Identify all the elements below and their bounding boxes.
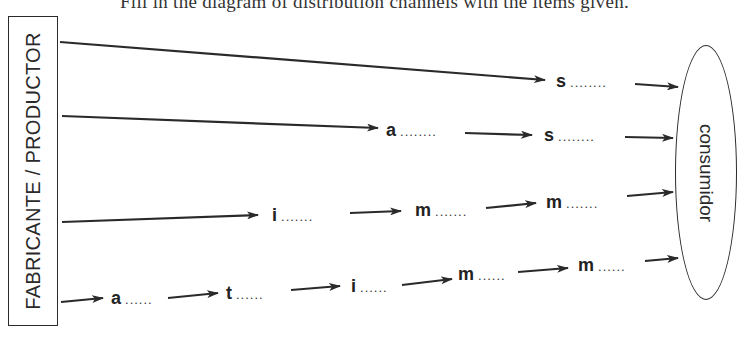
blank-dots[interactable]: ....... (281, 209, 313, 224)
channel-4-node-5: m...... (578, 255, 626, 276)
channel-3-node-3: m....... (546, 192, 598, 213)
arrow-icon (635, 84, 678, 87)
channel-1-node-1: s........ (556, 71, 607, 92)
blank-dots[interactable]: ...... (360, 280, 388, 295)
arrow-icon (627, 192, 673, 196)
node-letter: i (272, 205, 277, 225)
arrow-icon (518, 268, 568, 272)
arrow-icon (645, 258, 678, 261)
node-letter: s (544, 125, 554, 145)
arrow-icon (486, 203, 536, 208)
arrow-icon (168, 293, 218, 298)
channel-4-node-3: i...... (351, 276, 388, 297)
channel-3-node-1: i....... (272, 205, 313, 226)
channel-4-node-4: m...... (458, 264, 506, 285)
arrow-icon (291, 286, 340, 290)
blank-dots[interactable]: ....... (435, 204, 467, 219)
arrow-icon (62, 215, 258, 222)
arrow-icon (350, 211, 401, 213)
channel-4-node-2: t...... (226, 283, 264, 304)
arrow-icon (402, 279, 452, 285)
node-letter: m (546, 192, 562, 212)
blank-dots[interactable]: ........ (400, 124, 437, 139)
blank-dots[interactable]: ...... (478, 268, 506, 283)
node-letter: s (556, 71, 566, 91)
arrow-icon (465, 133, 532, 135)
node-letter: a (111, 288, 121, 308)
node-letter: t (226, 283, 232, 303)
node-letter: i (351, 276, 356, 296)
arrow-icon (61, 298, 103, 302)
channel-4-node-1: a...... (111, 288, 153, 309)
blank-dots[interactable]: ....... (566, 196, 598, 211)
blank-dots[interactable]: ...... (598, 259, 626, 274)
channel-3-node-2: m....... (415, 200, 467, 221)
node-letter: m (578, 255, 594, 275)
blank-dots[interactable]: ........ (558, 129, 595, 144)
node-letter: a (386, 120, 396, 140)
channel-2-node-2: s........ (544, 125, 595, 146)
arrow-icon (60, 42, 545, 80)
blank-dots[interactable]: ...... (236, 287, 264, 302)
arrow-icon (625, 137, 673, 138)
blank-dots[interactable]: ...... (125, 292, 153, 307)
node-letter: m (458, 264, 474, 284)
blank-dots[interactable]: ........ (570, 75, 607, 90)
arrow-icon (62, 116, 378, 128)
channel-2-node-1: a........ (386, 120, 437, 141)
node-letter: m (415, 200, 431, 220)
